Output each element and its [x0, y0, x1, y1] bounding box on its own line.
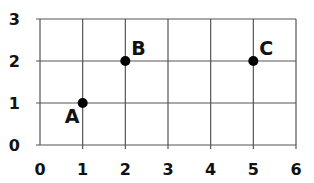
- y-tick-label: 2: [9, 52, 20, 71]
- point-a: A: [65, 98, 88, 127]
- x-tick-label: 2: [120, 160, 131, 179]
- x-tick-label: 1: [77, 160, 88, 179]
- y-tick-label: 1: [9, 94, 20, 113]
- x-axis-ticks: 0123456: [34, 160, 301, 179]
- point-label: B: [131, 37, 145, 59]
- point-b: B: [120, 37, 145, 66]
- x-tick-label: 6: [290, 160, 301, 179]
- grid-lines: [36, 19, 296, 149]
- coordinate-grid-chart: 0123456 0123 ABC: [0, 0, 314, 183]
- x-tick-label: 0: [34, 160, 45, 179]
- y-tick-label: 3: [9, 10, 20, 29]
- point-marker: [120, 56, 130, 66]
- point-label: A: [65, 105, 80, 127]
- point-label: C: [259, 37, 273, 59]
- point-c: C: [248, 37, 273, 66]
- point-marker: [248, 56, 258, 66]
- x-tick-label: 4: [205, 160, 216, 179]
- y-axis-ticks: 0123: [9, 10, 20, 155]
- x-tick-label: 3: [162, 160, 173, 179]
- x-tick-label: 5: [248, 160, 259, 179]
- data-points: ABC: [65, 37, 274, 127]
- y-tick-label: 0: [9, 136, 20, 155]
